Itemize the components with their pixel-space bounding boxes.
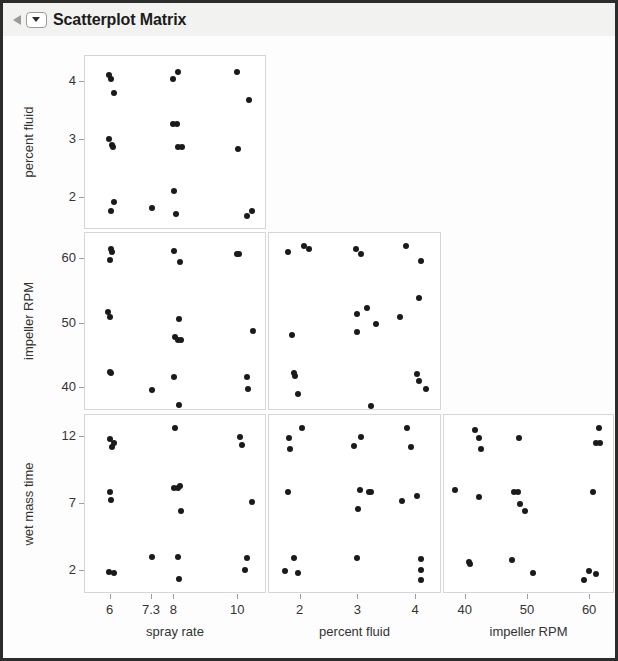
data-point[interactable]	[244, 374, 250, 380]
data-point[interactable]	[174, 121, 180, 127]
data-point[interactable]	[357, 487, 363, 493]
data-point[interactable]	[111, 90, 117, 96]
data-point[interactable]	[176, 576, 182, 582]
data-point[interactable]	[107, 257, 113, 263]
data-point[interactable]	[416, 295, 422, 301]
data-point[interactable]	[590, 489, 596, 495]
data-point[interactable]	[467, 561, 473, 567]
data-point[interactable]	[286, 435, 292, 441]
data-point[interactable]	[516, 435, 522, 441]
collapse-triangle-icon[interactable]	[11, 14, 23, 26]
data-point[interactable]	[292, 373, 298, 379]
data-point[interactable]	[404, 425, 410, 431]
data-point[interactable]	[246, 97, 252, 103]
data-point[interactable]	[285, 249, 291, 255]
data-point[interactable]	[399, 498, 405, 504]
data-point[interactable]	[354, 555, 360, 561]
data-point[interactable]	[235, 146, 241, 152]
data-point[interactable]	[354, 311, 360, 317]
data-point[interactable]	[176, 316, 182, 322]
data-point[interactable]	[530, 570, 536, 576]
data-point[interactable]	[416, 378, 422, 384]
data-point[interactable]	[177, 259, 183, 265]
data-point[interactable]	[517, 501, 523, 507]
data-point[interactable]	[237, 434, 243, 440]
data-point[interactable]	[418, 556, 424, 562]
data-point[interactable]	[368, 489, 374, 495]
panel-menu-dropdown-icon[interactable]	[26, 12, 47, 28]
data-point[interactable]	[364, 305, 370, 311]
scatter-panel-percent-fluid-vs-spray-rate[interactable]	[84, 55, 266, 229]
data-point[interactable]	[172, 425, 178, 431]
data-point[interactable]	[109, 249, 115, 255]
data-point[interactable]	[111, 570, 117, 576]
data-point[interactable]	[107, 489, 113, 495]
data-point[interactable]	[354, 329, 360, 335]
data-point[interactable]	[351, 443, 357, 449]
data-point[interactable]	[250, 328, 256, 334]
data-point[interactable]	[295, 391, 301, 397]
data-point[interactable]	[111, 440, 117, 446]
data-point[interactable]	[581, 577, 587, 583]
scatter-panel-wet-mass-time-vs-percent-fluid[interactable]	[268, 414, 441, 593]
data-point[interactable]	[171, 248, 177, 254]
data-point[interactable]	[358, 434, 364, 440]
data-point[interactable]	[414, 371, 420, 377]
data-point[interactable]	[476, 435, 482, 441]
data-point[interactable]	[373, 321, 379, 327]
data-point[interactable]	[285, 489, 291, 495]
data-point[interactable]	[476, 494, 482, 500]
data-point[interactable]	[236, 251, 242, 257]
data-point[interactable]	[239, 442, 245, 448]
data-point[interactable]	[149, 205, 155, 211]
data-point[interactable]	[249, 208, 255, 214]
data-point[interactable]	[244, 555, 250, 561]
data-point[interactable]	[179, 144, 185, 150]
data-point[interactable]	[108, 76, 114, 82]
data-point[interactable]	[108, 497, 114, 503]
data-point[interactable]	[355, 506, 361, 512]
data-point[interactable]	[597, 440, 603, 446]
data-point[interactable]	[368, 403, 374, 409]
data-point[interactable]	[593, 571, 599, 577]
data-point[interactable]	[177, 483, 183, 489]
data-point[interactable]	[418, 577, 424, 583]
data-point[interactable]	[306, 246, 312, 252]
data-point[interactable]	[171, 188, 177, 194]
data-point[interactable]	[178, 508, 184, 514]
data-point[interactable]	[478, 446, 484, 452]
scatter-panel-wet-mass-time-vs-spray-rate[interactable]	[84, 414, 266, 593]
data-point[interactable]	[295, 570, 301, 576]
data-point[interactable]	[291, 555, 297, 561]
data-point[interactable]	[149, 554, 155, 560]
data-point[interactable]	[472, 427, 478, 433]
data-point[interactable]	[245, 386, 251, 392]
data-point[interactable]	[111, 199, 117, 205]
data-point[interactable]	[596, 425, 602, 431]
scatter-panel-wet-mass-time-vs-impeller-RPM[interactable]	[443, 414, 614, 593]
data-point[interactable]	[397, 314, 403, 320]
data-point[interactable]	[586, 568, 592, 574]
data-point[interactable]	[149, 387, 155, 393]
scatter-panel-impeller-RPM-vs-spray-rate[interactable]	[84, 232, 266, 410]
data-point[interactable]	[289, 332, 295, 338]
data-point[interactable]	[509, 557, 515, 563]
data-point[interactable]	[249, 499, 255, 505]
data-point[interactable]	[418, 567, 424, 573]
data-point[interactable]	[178, 337, 184, 343]
data-point[interactable]	[282, 568, 288, 574]
data-point[interactable]	[423, 386, 429, 392]
data-point[interactable]	[408, 444, 414, 450]
data-point[interactable]	[173, 211, 179, 217]
data-point[interactable]	[414, 493, 420, 499]
scatter-panel-impeller-RPM-vs-percent-fluid[interactable]	[268, 232, 441, 410]
data-point[interactable]	[358, 251, 364, 257]
data-point[interactable]	[110, 144, 116, 150]
data-point[interactable]	[108, 370, 114, 376]
data-point[interactable]	[170, 76, 176, 82]
data-point[interactable]	[234, 69, 240, 75]
data-point[interactable]	[418, 258, 424, 264]
data-point[interactable]	[171, 374, 177, 380]
data-point[interactable]	[515, 489, 521, 495]
data-point[interactable]	[176, 402, 182, 408]
